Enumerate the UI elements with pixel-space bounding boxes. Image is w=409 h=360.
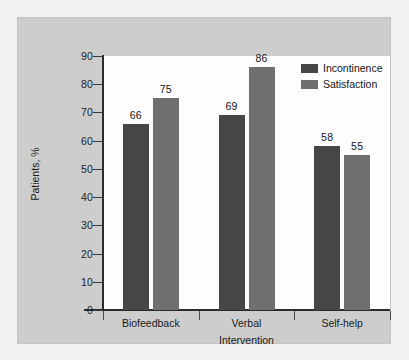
bar (219, 115, 245, 310)
legend-item: Satisfaction (301, 78, 383, 91)
legend-item: Incontinence (301, 62, 383, 75)
x-axis-category-label: Self-help (287, 317, 397, 329)
x-axis-title: Intervention (103, 334, 390, 346)
chart-legend: IncontinenceSatisfaction (301, 62, 383, 94)
y-axis-tick (93, 56, 102, 57)
y-axis-tick-text: 60 (67, 136, 93, 146)
bar-value-label: 66 (116, 110, 156, 121)
y-axis-tick-text: 0 (67, 305, 93, 315)
y-axis-tick-text: 50 (67, 164, 93, 174)
y-axis-tick-label: 10 (58, 277, 93, 287)
y-axis-tick-label: 0 (58, 305, 93, 315)
figure-root: 0102030405060708090 667569865855 Biofeed… (0, 0, 409, 360)
y-axis-tick (93, 169, 102, 170)
y-axis-tick (93, 197, 102, 198)
x-axis-category-label: Biofeedback (96, 317, 206, 329)
y-axis-tick-label: 90 (58, 51, 93, 61)
y-axis-tick (93, 254, 102, 255)
legend-label: Incontinence (323, 63, 383, 74)
legend-label: Satisfaction (323, 79, 377, 90)
y-axis-tick-text: 40 (67, 192, 93, 202)
bar (153, 98, 179, 310)
bar (314, 146, 340, 310)
y-axis-tick (93, 112, 102, 113)
x-axis-category-label: Verbal (192, 317, 302, 329)
bar (123, 124, 149, 310)
bar-value-label: 55 (337, 141, 377, 152)
y-axis-tick-label: 20 (58, 249, 93, 259)
y-axis-tick (93, 225, 102, 226)
bar (249, 67, 275, 310)
legend-swatch-icon (301, 80, 318, 89)
y-axis-tick-text: 20 (67, 249, 93, 259)
y-axis-tick (93, 84, 102, 85)
y-axis-tick-text: 80 (67, 79, 93, 89)
bar-value-label: 86 (242, 53, 282, 64)
y-axis-tick-label: 70 (58, 107, 93, 117)
y-axis-tick-label: 30 (58, 220, 93, 230)
y-axis-tick-label: 60 (58, 136, 93, 146)
y-axis-tick (93, 282, 102, 283)
y-axis-tick-text: 90 (67, 51, 93, 61)
y-axis-tick-label: 40 (58, 192, 93, 202)
y-axis-spine (102, 55, 104, 311)
y-axis-tick-text: 30 (67, 220, 93, 230)
legend-swatch-icon (301, 64, 318, 73)
y-axis-title: Patients, % (29, 129, 41, 219)
bar (344, 155, 370, 310)
y-axis-tick-label: 80 (58, 79, 93, 89)
bar-value-label: 69 (212, 101, 252, 112)
y-axis-tick (93, 141, 102, 142)
figure-panel: 0102030405060708090 667569865855 Biofeed… (18, 18, 390, 343)
bar-value-label: 75 (146, 84, 186, 95)
y-axis-tick-text: 10 (67, 277, 93, 287)
y-axis-tick-label: 50 (58, 164, 93, 174)
y-axis-tick (93, 310, 102, 311)
y-axis-tick-text: 70 (67, 107, 93, 117)
